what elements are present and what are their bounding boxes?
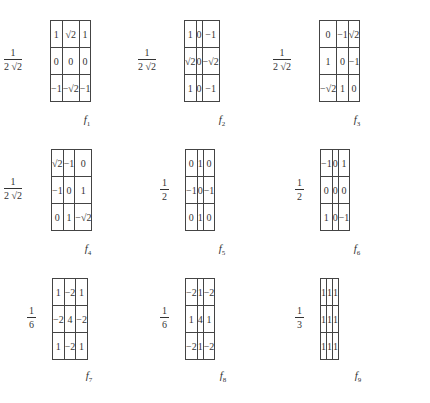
mask-cell: 1 [53, 333, 65, 360]
mask-cell: 0 [51, 48, 63, 75]
mask-cell: 1 [320, 48, 337, 75]
mask-cell: 1 [185, 75, 197, 102]
coefficient-numerator: 1 [4, 176, 22, 189]
mask-row: 10−1 [320, 48, 360, 75]
mask-cell: −1 [202, 21, 219, 48]
mask-row: 141 [186, 306, 215, 333]
mask-row: 1√21 [51, 21, 91, 48]
mask-row: −21−2 [186, 333, 215, 360]
mask-row: √20−√2 [185, 48, 220, 75]
filter-label-index: 3 [357, 120, 361, 128]
filter-label: f4 [73, 242, 103, 257]
mask-row: 000 [321, 177, 350, 204]
filter-label: f6 [342, 242, 372, 257]
mask-grid: 0−1√210−1−√210 [319, 20, 360, 102]
mask-row: −1−√2−1 [51, 75, 91, 102]
mask-cell: −1 [321, 150, 333, 177]
mask-cell: 1 [75, 177, 92, 204]
mask-row: 10−1 [321, 204, 350, 231]
normalization-coefficient: 12 √2 [4, 47, 22, 72]
mask-cell: 4 [64, 306, 76, 333]
normalization-coefficient: 12 √2 [4, 176, 22, 201]
filter-label: f8 [208, 369, 238, 384]
normalization-coefficient: 13 [295, 305, 304, 330]
filter-label-index: 6 [357, 249, 361, 257]
mask-row: 1−21 [53, 333, 88, 360]
mask-cell: 0 [321, 177, 333, 204]
mask-cell: −2 [53, 306, 65, 333]
mask-cell: −1 [51, 75, 63, 102]
mask-cell: −1 [79, 75, 91, 102]
filter-label-index: 4 [88, 249, 92, 257]
filter-label: f2 [207, 113, 237, 128]
mask-cell: 1 [337, 75, 349, 102]
mask-cell: 0 [186, 204, 198, 231]
mask-cell: 1 [186, 306, 198, 333]
coefficient-numerator: 1 [4, 47, 22, 60]
mask-cell: √2 [62, 21, 79, 48]
mask-cell: 0 [52, 204, 64, 231]
mask-row: 1−21 [53, 279, 88, 306]
coefficient-numerator: 1 [273, 47, 291, 60]
normalization-coefficient: 12 [295, 177, 304, 202]
normalization-coefficient: 12 √2 [273, 47, 291, 72]
coefficient-denominator: 2 √2 [273, 60, 291, 72]
coefficient-numerator: 1 [160, 305, 169, 318]
coefficient-numerator: 1 [295, 305, 304, 318]
mask-row: −10−1 [186, 177, 215, 204]
mask-cell: −1 [338, 204, 350, 231]
coefficient-denominator: 2 √2 [138, 60, 156, 72]
mask-cell: −1 [186, 177, 198, 204]
mask-cell: −√2 [62, 75, 79, 102]
mask-cell: −1 [348, 48, 360, 75]
mask-cell: 1 [333, 333, 339, 360]
mask-row: √2−10 [52, 150, 92, 177]
normalization-coefficient: 16 [27, 305, 36, 330]
mask-cell: −√2 [202, 48, 219, 75]
mask-row: 111 [321, 279, 339, 306]
mask-row: −21−2 [186, 279, 215, 306]
mask-cell: −2 [76, 306, 88, 333]
filter-label-index: 9 [358, 376, 362, 384]
mask-cell: √2 [185, 48, 197, 75]
mask-cell: 0 [79, 48, 91, 75]
filter-label: f3 [342, 113, 372, 128]
normalization-coefficient: 12 √2 [138, 47, 156, 72]
mask-cell: −2 [186, 333, 198, 360]
mask-cell: 1 [53, 279, 65, 306]
mask-row: 111 [321, 333, 339, 360]
mask-cell: 1 [203, 306, 215, 333]
mask-row: 10−1 [185, 21, 220, 48]
mask-row: 10−1 [185, 75, 220, 102]
mask-cell: 1 [63, 204, 75, 231]
mask-row: −√210 [320, 75, 360, 102]
filter-label-index: 1 [87, 120, 91, 128]
coefficient-numerator: 1 [160, 177, 169, 190]
mask-grid: 1√21000−1−√2−1 [50, 20, 91, 102]
filter-label: f7 [74, 369, 104, 384]
coefficient-numerator: 1 [27, 305, 36, 318]
mask-cell: 0 [338, 177, 350, 204]
mask-cell: 1 [185, 21, 197, 48]
mask-cell: −1 [52, 177, 64, 204]
filter-label: f1 [72, 113, 102, 128]
mask-cell: 0 [62, 48, 79, 75]
mask-row: 01−√2 [52, 204, 92, 231]
mask-cell: −√2 [75, 204, 92, 231]
mask-cell: √2 [52, 150, 64, 177]
mask-cell: −1 [202, 75, 219, 102]
coefficient-denominator: 6 [27, 318, 36, 330]
normalization-coefficient: 16 [160, 305, 169, 330]
mask-cell: 1 [321, 204, 333, 231]
coefficient-denominator: 2 [160, 190, 169, 202]
mask-cell: 1 [338, 150, 350, 177]
mask-cell: 0 [203, 204, 215, 231]
mask-grid: −21−2141−21−2 [185, 278, 215, 360]
mask-grid: 111111111 [320, 278, 339, 360]
filter-label: f9 [343, 369, 373, 384]
mask-cell: 1 [76, 279, 88, 306]
mask-grid: 1−21−24−21−21 [52, 278, 88, 360]
coefficient-denominator: 2 √2 [4, 60, 22, 72]
mask-cell: −2 [203, 333, 215, 360]
mask-cell: −1 [203, 177, 215, 204]
